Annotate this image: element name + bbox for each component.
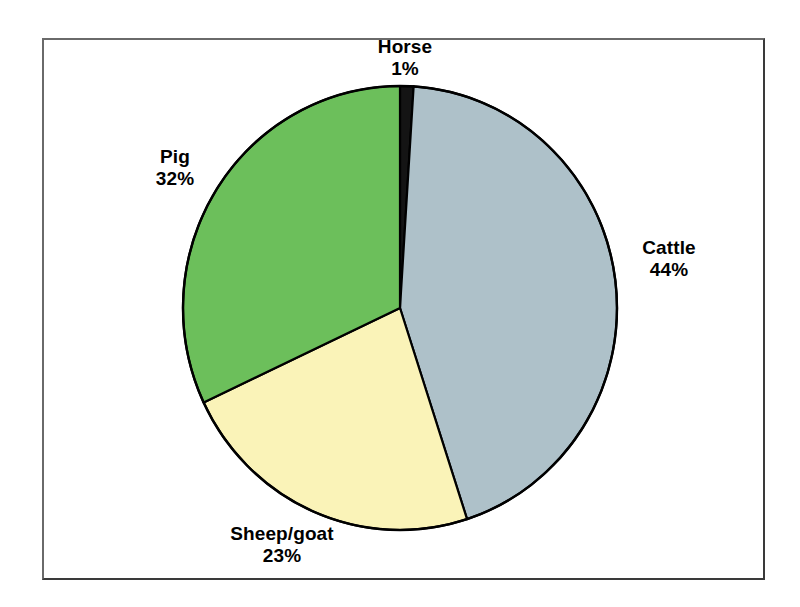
slice-label-cattle-value: 44% xyxy=(604,259,734,281)
slice-label-sheep-goat: Sheep/goat 23% xyxy=(182,523,382,567)
slice-label-horse: Horse 1% xyxy=(330,36,480,80)
slice-label-sheep-goat-name: Sheep/goat xyxy=(182,523,382,545)
pie-slices xyxy=(183,86,617,530)
pie-chart-graphic xyxy=(0,0,800,607)
pie-chart-figure: Horse 1% Cattle 44% Pig 32% Sheep/goat 2… xyxy=(0,0,800,607)
slice-label-pig: Pig 32% xyxy=(110,146,240,190)
slice-label-pig-value: 32% xyxy=(110,168,240,190)
slice-label-cattle: Cattle 44% xyxy=(604,237,734,281)
slice-label-horse-name: Horse xyxy=(330,36,480,58)
slice-label-horse-value: 1% xyxy=(330,58,480,80)
slice-label-pig-name: Pig xyxy=(110,146,240,168)
slice-label-cattle-name: Cattle xyxy=(604,237,734,259)
slice-label-sheep-goat-value: 23% xyxy=(182,545,382,567)
